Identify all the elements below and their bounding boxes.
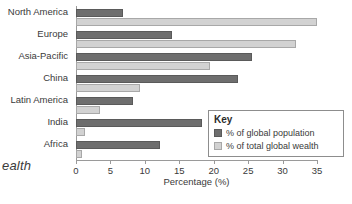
- x-axis-title: Percentage (%): [76, 176, 317, 187]
- category-label: Latin America: [0, 95, 68, 105]
- x-tick: [76, 160, 77, 164]
- bar-wealth: [76, 128, 85, 136]
- bar-population: [76, 53, 252, 61]
- caption-fragment-text: ealth: [2, 158, 31, 173]
- category-label: Africa: [0, 139, 68, 149]
- category-label: Asia-Pacific: [0, 51, 68, 61]
- legend-label-wealth: % of total global wealth: [226, 140, 319, 152]
- x-tick: [248, 160, 249, 164]
- bar-wealth: [76, 40, 296, 48]
- x-tick-label: 20: [208, 165, 219, 176]
- legend-box: Key % of global population % of total gl…: [208, 110, 344, 157]
- x-tick-label: 5: [108, 165, 113, 176]
- x-tick-label: 25: [243, 165, 254, 176]
- x-axis-line: [76, 160, 317, 161]
- category-axis-labels: North AmericaEuropeAsia-PacificChinaLati…: [0, 6, 72, 160]
- x-tick-label: 35: [312, 165, 323, 176]
- x-tick-label: 0: [73, 165, 78, 176]
- dark-swatch-icon: [214, 129, 222, 137]
- x-tick: [214, 160, 215, 164]
- light-swatch-icon: [214, 142, 222, 150]
- category-label: Europe: [0, 29, 68, 39]
- bar-population: [76, 97, 133, 105]
- x-tick: [145, 160, 146, 164]
- x-tick-label: 30: [277, 165, 288, 176]
- x-tick: [110, 160, 111, 164]
- legend-label-population: % of global population: [226, 127, 315, 139]
- x-tick: [179, 160, 180, 164]
- x-tick: [317, 160, 318, 164]
- bar-wealth: [76, 106, 100, 114]
- bar-population: [76, 9, 123, 17]
- category-label: China: [0, 73, 68, 83]
- bar-population: [76, 119, 202, 127]
- legend-item-population: % of global population: [214, 127, 338, 139]
- bar-wealth: [76, 18, 317, 26]
- x-tick-label: 15: [174, 165, 185, 176]
- bar-wealth: [76, 150, 82, 158]
- bar-population: [76, 141, 160, 149]
- legend-title: Key: [214, 114, 338, 125]
- bar-chart-figure: ealth North AmericaEuropeAsia-PacificChi…: [0, 0, 352, 204]
- bar-wealth: [76, 62, 210, 70]
- x-tick: [283, 160, 284, 164]
- bar-population: [76, 75, 238, 83]
- bar-wealth: [76, 84, 140, 92]
- legend-item-wealth: % of total global wealth: [214, 140, 338, 152]
- x-tick-label: 10: [140, 165, 151, 176]
- category-label: India: [0, 117, 68, 127]
- category-label: North America: [0, 7, 68, 17]
- bar-population: [76, 31, 172, 39]
